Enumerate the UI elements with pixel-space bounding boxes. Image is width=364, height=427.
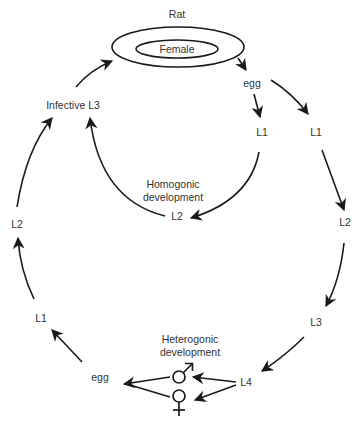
life-cycle-diagram: Rat Female egg L1 L1 Homogonic developme… — [0, 0, 364, 427]
heterogonic-label-2: development — [160, 346, 220, 358]
arrow-infective-l3-to-rat — [76, 61, 112, 87]
male-symbol-icon — [173, 364, 193, 384]
arrow-l4-to-male — [193, 377, 236, 382]
female-label: Female — [159, 43, 194, 55]
arrow-l1-to-l2-homogonic — [191, 152, 259, 218]
arrow-female-to-egg — [130, 385, 170, 397]
egg-top-label: egg — [243, 77, 261, 89]
arrow-egg-to-l1-left — [52, 330, 82, 362]
homogonic-label-1: Homogonic — [146, 178, 199, 190]
arrow-egg-to-l1-outer — [271, 80, 308, 114]
arrow-l4-to-female — [195, 385, 236, 400]
l1-inner-label: L1 — [256, 126, 268, 138]
rat-label: Rat — [169, 8, 185, 20]
arrow-l1-to-l2-left — [18, 238, 34, 299]
l3-right-label: L3 — [310, 316, 322, 328]
infective-l3-label: Infective L3 — [46, 99, 100, 111]
arrow-l3-to-l4 — [262, 337, 304, 371]
arrow-rat-to-egg — [238, 58, 246, 70]
arrow-l2-left-to-infective-l3 — [17, 118, 52, 207]
l2-inner-label: L2 — [171, 210, 183, 222]
l2-right-label: L2 — [339, 216, 351, 228]
l4-label: L4 — [240, 376, 252, 388]
heterogonic-label-1: Heterogonic — [162, 333, 219, 345]
arrow-egg-to-l1-inner — [254, 94, 260, 117]
female-symbol-icon — [173, 390, 185, 416]
egg-bottom-label: egg — [91, 371, 109, 383]
arrow-male-to-egg — [124, 377, 170, 384]
l1-outer-label: L1 — [310, 126, 322, 138]
arrow-l2-to-l3-right — [326, 243, 344, 306]
l1-left-label: L1 — [35, 312, 47, 324]
arrow-l1-to-l2-right — [322, 150, 344, 210]
l2-left-label: L2 — [11, 218, 23, 230]
homogonic-label-2: development — [143, 191, 203, 203]
